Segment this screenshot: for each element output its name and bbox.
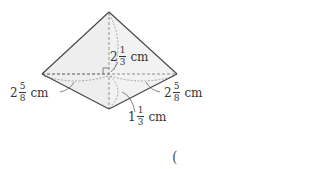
left-base-label: 2 5 8 cm [10,82,48,103]
front-base-fraction: 1 3 [137,106,145,127]
right-base-label: 2 5 8 cm [164,82,202,103]
pyramid-left-face [42,12,109,109]
left-base-fraction: 5 8 [19,82,27,103]
right-base-unit: cm [184,87,202,99]
front-base-numerator: 1 [137,106,145,117]
height-fraction: 1 3 [119,46,127,67]
right-base-fraction: 5 8 [173,82,181,103]
answer-bracket: ( [172,149,177,165]
right-base-numerator: 5 [173,82,181,93]
front-base-denominator: 3 [138,117,144,127]
height-numerator: 1 [119,46,127,57]
left-base-whole: 2 [10,87,18,99]
left-base-denominator: 8 [20,93,26,103]
left-base-numerator: 5 [19,82,27,93]
height-label: 2 1 3 cm [110,46,148,67]
front-base-label: 1 1 3 cm [128,106,166,127]
right-base-denominator: 8 [174,93,180,103]
height-unit: cm [130,51,148,63]
front-base-unit: cm [148,111,166,123]
left-base-unit: cm [30,87,48,99]
front-base-whole: 1 [128,111,136,123]
height-whole: 2 [110,51,118,63]
height-denominator: 3 [120,57,126,67]
right-base-whole: 2 [164,87,172,99]
